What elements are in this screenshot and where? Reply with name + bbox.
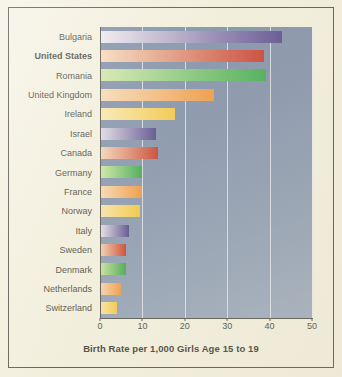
bar-row (100, 85, 312, 104)
category-label: Switzerland (45, 303, 92, 313)
bar-row (100, 240, 312, 259)
category-label: Netherlands (43, 284, 92, 294)
bar-row (100, 105, 312, 124)
tick-label-20: 20 (180, 321, 190, 331)
bar-norway[interactable] (100, 205, 140, 217)
category-label: Italy (75, 226, 92, 236)
bar-united-kingdom[interactable] (100, 89, 214, 101)
category-label: Romania (56, 71, 92, 81)
tick-label-40: 40 (265, 321, 275, 331)
category-label: United Kingdom (28, 90, 92, 100)
bar-row (100, 299, 312, 318)
bar-united-states[interactable] (100, 50, 264, 62)
bar-italy[interactable] (100, 225, 129, 237)
bar-row (100, 143, 312, 162)
bar-row (100, 221, 312, 240)
bars-group (100, 27, 312, 318)
bar-row (100, 202, 312, 221)
bar-sweden[interactable] (100, 244, 126, 256)
bar-canada[interactable] (100, 147, 158, 159)
bar-germany[interactable] (100, 166, 142, 178)
bar-row (100, 27, 312, 46)
category-axis-labels: BulgariaUnited StatesRomaniaUnited Kingd… (0, 27, 96, 318)
bar-row (100, 46, 312, 65)
tick-label-50: 50 (307, 321, 317, 331)
gridline-50 (312, 27, 313, 318)
bar-row (100, 182, 312, 201)
category-label: Ireland (64, 109, 92, 119)
category-label: Bulgaria (59, 32, 92, 42)
plot-area (100, 27, 312, 318)
bar-row (100, 163, 312, 182)
category-label: United States (34, 51, 92, 61)
bar-row (100, 279, 312, 298)
bar-netherlands[interactable] (100, 283, 121, 295)
bar-israel[interactable] (100, 128, 156, 140)
bar-switzerland[interactable] (100, 302, 117, 314)
category-label: Israel (70, 129, 92, 139)
x-axis-title: Birth Rate per 1,000 Girls Age 15 to 19 (0, 343, 342, 354)
bar-denmark[interactable] (100, 263, 126, 275)
bar-row (100, 260, 312, 279)
tick-label-10: 10 (137, 321, 147, 331)
bar-row (100, 124, 312, 143)
value-axis-ticks: 01020304050 (0, 321, 342, 335)
chart-figure: BulgariaUnited StatesRomaniaUnited Kingd… (0, 0, 342, 377)
bar-romania[interactable] (100, 69, 266, 81)
x-axis-line (100, 318, 313, 319)
category-label: France (64, 187, 92, 197)
bar-row (100, 66, 312, 85)
tick-label-30: 30 (222, 321, 232, 331)
category-label: Canada (60, 148, 92, 158)
category-label: Norway (61, 206, 92, 216)
tick-label-0: 0 (97, 321, 102, 331)
category-label: Germany (55, 168, 92, 178)
bar-bulgaria[interactable] (100, 31, 282, 43)
category-label: Denmark (55, 265, 92, 275)
bar-france[interactable] (100, 186, 142, 198)
category-label: Sweden (59, 245, 92, 255)
y-axis-line (100, 27, 101, 319)
bar-ireland[interactable] (100, 108, 175, 120)
